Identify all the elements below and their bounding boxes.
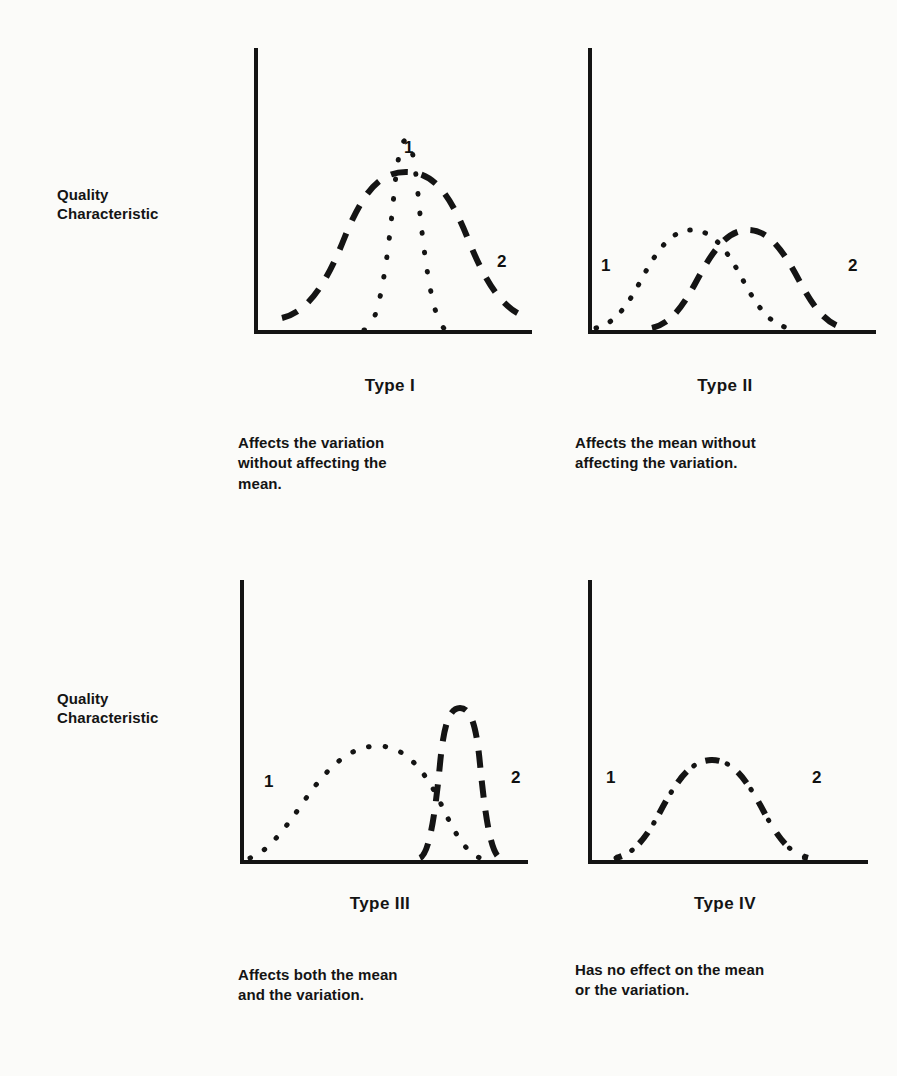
curve-type-1-series-2	[282, 172, 530, 318]
curve-type-2-series-2	[652, 230, 844, 328]
chart-type-2-svg	[580, 44, 880, 344]
curve-type-3-series-1	[250, 746, 480, 858]
caption-type-2: Affects the mean without affecting the v…	[575, 433, 865, 474]
chart-type-1	[246, 44, 536, 344]
curve-type-2-series-1	[596, 230, 788, 328]
y-axis-label-top: Quality Characteristic	[57, 186, 158, 224]
curve-label-2-type-4: 2	[812, 768, 821, 788]
curve-label-1-type-3: 1	[264, 772, 273, 792]
curve-label-1-type-2: 1	[601, 256, 610, 276]
curve-label-1-type-4: 1	[606, 768, 615, 788]
axis-lines-type-2	[590, 48, 876, 332]
caption-type-1: Affects the variation without affecting …	[238, 433, 488, 494]
curve-type-4-series-2	[616, 760, 808, 858]
caption-type-3: Affects both the mean and the variation.	[238, 965, 528, 1006]
chart-type-1-svg	[246, 44, 536, 344]
type-label-4: Type IV	[595, 894, 855, 914]
axis-lines-type-4	[590, 580, 868, 862]
type-label-1: Type I	[260, 376, 520, 396]
curve-label-2-type-1: 2	[497, 252, 506, 272]
curve-type-1-series-1	[364, 140, 448, 330]
chart-type-2	[580, 44, 880, 344]
curve-type-4-series-1	[616, 760, 808, 858]
type-label-2: Type II	[595, 376, 855, 396]
curve-label-2-type-3: 2	[511, 768, 520, 788]
chart-type-3-svg	[232, 576, 532, 876]
type-label-3: Type III	[250, 894, 510, 914]
caption-type-4: Has no effect on the mean or the variati…	[575, 960, 875, 1001]
curve-label-2-type-2: 2	[848, 256, 857, 276]
curve-type-3-series-2	[420, 708, 500, 858]
curve-label-1-type-1: 1	[404, 138, 413, 158]
chart-type-3	[232, 576, 532, 876]
chart-type-4-svg	[580, 576, 880, 876]
chart-type-4	[580, 576, 880, 876]
y-axis-label-bottom: Quality Characteristic	[57, 690, 158, 728]
